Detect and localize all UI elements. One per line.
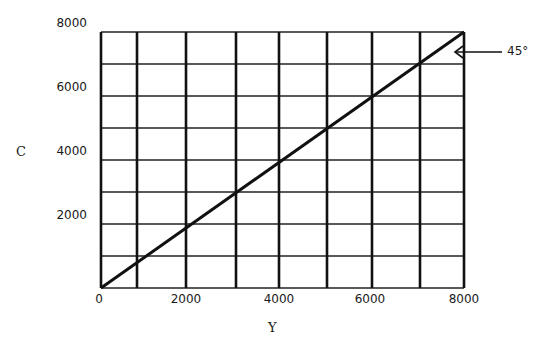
- x-axis-label: Y: [268, 320, 277, 335]
- annotation-45-degrees: 45°: [507, 44, 528, 58]
- y-axis-label: C: [16, 144, 26, 159]
- x-tick-6000: 6000: [345, 292, 395, 306]
- y-tick-4000: 4000: [37, 144, 87, 158]
- x-tick-2000: 2000: [161, 292, 211, 306]
- x-tick-0: 0: [74, 292, 124, 306]
- x-tick-4000: 4000: [254, 292, 304, 306]
- annotation-arrow: [455, 46, 502, 58]
- x-tick-8000: 8000: [439, 292, 489, 306]
- y-tick-8000: 8000: [37, 16, 87, 30]
- y-tick-2000: 2000: [37, 208, 87, 222]
- y-tick-6000: 6000: [37, 80, 87, 94]
